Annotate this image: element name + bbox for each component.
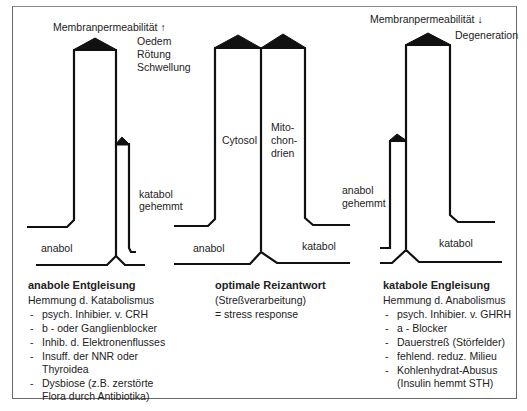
left-symptom-oedem: Oedem xyxy=(137,35,171,47)
list-item: -Kohlenhydrat-Abusus (Insulin hemmt STH) xyxy=(383,364,513,390)
right-small-label-2: gehemmt xyxy=(342,197,386,209)
left-big-column xyxy=(27,50,116,256)
list-item: -Insuff. der NNR oder Thyroidea xyxy=(28,350,178,376)
middle-caption-line-1: (Streßverarbeitung) xyxy=(215,294,355,307)
left-caption-subtitle: Hemmung d. Katabolismus xyxy=(28,294,178,307)
right-permeability-label: Membranpermeabilität ↓ xyxy=(370,13,483,25)
left-small-label-1: katabol xyxy=(139,188,173,200)
right-caption-title: katabole Engleisung xyxy=(383,279,513,292)
list-item: -a - Blocker xyxy=(383,322,513,335)
left-caption-title: anabole Entgleisung xyxy=(28,279,178,292)
left-small-roof xyxy=(115,137,130,145)
list-item: -psych. Inhibier. v. GHRH xyxy=(383,308,513,321)
left-big-roof xyxy=(73,38,117,50)
right-caption-list: -psych. Inhibier. v. GHRH -a - Blocker -… xyxy=(383,308,513,390)
middle-caption-title: optimale Reizantwort xyxy=(215,279,355,292)
right-symptom-degeneration: Degeneration xyxy=(455,29,518,41)
middle-mito-label-3: drien xyxy=(271,147,294,159)
left-permeability-label: Membranpermeabilität ↑ xyxy=(53,21,166,33)
middle-caption: optimale Reizantwort (Streßverarbeitung)… xyxy=(215,279,355,322)
list-item: -Dysbiose (z.B. zerstörte Flora durch An… xyxy=(28,377,178,403)
left-small-label-2: gehemmt xyxy=(139,200,183,212)
list-item: -b - oder Ganglienblocker xyxy=(28,322,178,335)
middle-mito-label-1: Mito- xyxy=(271,121,294,133)
right-small-label-1: anabol xyxy=(342,184,374,196)
left-baseline xyxy=(36,256,145,265)
list-item: -fehlend. reduz. Milieu xyxy=(383,350,513,363)
middle-columns xyxy=(174,48,350,251)
left-foot-label: anabol xyxy=(41,242,73,254)
middle-left-roof xyxy=(214,35,261,48)
right-small-roof xyxy=(389,134,407,141)
right-foot-label: katabol xyxy=(439,237,473,249)
right-caption: katabole Engleisung Hemmung d. Anabolism… xyxy=(383,279,513,391)
left-symptom-schwellung: Schwellung xyxy=(137,61,191,73)
right-caption-subtitle: Hemmung d. Anabolismus xyxy=(383,294,513,307)
right-big-column xyxy=(406,45,495,249)
left-caption: anabole Entgleisung Hemmung d. Katabolis… xyxy=(28,279,178,404)
right-baseline xyxy=(380,250,502,263)
middle-right-foot-label: katabol xyxy=(302,240,336,252)
left-small-column xyxy=(116,144,136,252)
middle-cytosol-label: Cytosol xyxy=(222,134,257,146)
middle-right-roof xyxy=(261,34,306,48)
left-caption-list: -psych. Inhibier. v. CRH -b - oder Gangl… xyxy=(28,308,178,403)
right-big-roof xyxy=(405,33,451,45)
right-small-column xyxy=(380,141,406,248)
middle-left-foot-label: anabol xyxy=(193,242,225,254)
middle-caption-line-2: = stress response xyxy=(215,308,355,321)
list-item: -Dauerstreß (Störfelder) xyxy=(383,336,513,349)
left-symptom-roetung: Rötung xyxy=(137,48,171,60)
list-item: -psych. Inhibier. v. CRH xyxy=(28,308,178,321)
list-item: -Inhib. d. Elektronenflusses xyxy=(28,336,178,349)
middle-mito-label-2: chon- xyxy=(271,134,297,146)
